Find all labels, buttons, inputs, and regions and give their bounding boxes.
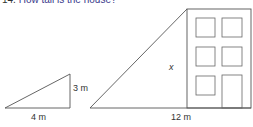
window-icon — [196, 47, 215, 66]
window-icon — [196, 18, 215, 37]
window-icon — [222, 18, 242, 37]
door-icon — [222, 75, 242, 108]
large-triangle-hypotenuse — [90, 9, 187, 108]
small-triangle — [5, 74, 70, 108]
large-triangle-base-label: 12 m — [171, 112, 191, 122]
window-icon — [222, 47, 242, 66]
small-triangle-height-label: 3 m — [73, 83, 88, 93]
large-triangle-height-label: x — [169, 62, 174, 72]
house-outline — [187, 9, 251, 108]
small-triangle-base-label: 4 m — [31, 112, 46, 122]
window-icon — [196, 76, 215, 95]
similar-triangles-diagram — [0, 0, 253, 127]
